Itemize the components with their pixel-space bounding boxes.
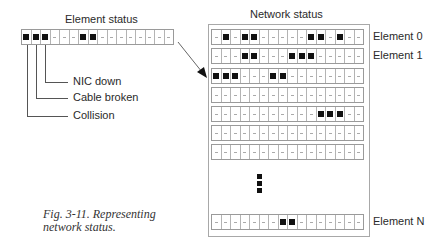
bit-clear <box>326 215 336 229</box>
bit-clear <box>336 49 346 63</box>
bit-clear <box>231 30 241 44</box>
bit-clear <box>355 49 364 63</box>
bit-clear <box>260 49 270 63</box>
bit-clear <box>345 69 355 83</box>
bit-clear <box>241 69 251 83</box>
bit-clear <box>212 145 222 159</box>
bit-set <box>317 30 327 44</box>
bit-clear <box>298 126 308 140</box>
bit-clear <box>260 30 270 44</box>
network-row-0 <box>211 29 364 45</box>
bit-set <box>279 215 289 229</box>
network-row-6 <box>211 144 364 160</box>
bit-clear <box>279 30 289 44</box>
bit-clear <box>298 107 308 121</box>
bit-clear <box>298 88 308 102</box>
bit-clear <box>288 145 298 159</box>
vertical-ellipsis-dot <box>257 188 262 193</box>
bit-clear <box>288 126 298 140</box>
bit-set <box>241 49 251 63</box>
bit-clear <box>355 126 364 140</box>
bit-clear <box>241 107 251 121</box>
bit-clear <box>212 88 222 102</box>
bit-clear <box>317 215 327 229</box>
bit-set <box>250 49 260 63</box>
bit-clear <box>288 88 298 102</box>
bit-clear <box>345 215 355 229</box>
bit-clear <box>231 126 241 140</box>
bit-clear <box>355 30 364 44</box>
bit-clear <box>231 49 241 63</box>
bit-clear <box>222 145 232 159</box>
bit-set <box>222 30 232 44</box>
bit-clear <box>326 88 336 102</box>
bit-clear <box>212 107 222 121</box>
bit-clear <box>355 69 364 83</box>
bit-clear <box>298 145 308 159</box>
bit-set <box>212 69 222 83</box>
bit-set <box>336 30 346 44</box>
bit-clear <box>288 30 298 44</box>
bit-clear <box>241 145 251 159</box>
bit-clear <box>241 126 251 140</box>
bit-clear <box>288 107 298 121</box>
bit-clear <box>269 49 279 63</box>
bit-clear <box>307 69 317 83</box>
bit-clear <box>345 126 355 140</box>
bit-clear <box>269 88 279 102</box>
arrow-head-icon <box>197 67 207 78</box>
bit-set <box>279 69 289 83</box>
bit-clear <box>222 107 232 121</box>
bit-clear <box>326 126 336 140</box>
bit-clear <box>355 215 364 229</box>
bit-clear <box>269 126 279 140</box>
bit-clear <box>212 49 222 63</box>
bit-clear <box>269 107 279 121</box>
vertical-ellipsis-dot <box>257 181 262 186</box>
bit-clear <box>298 215 308 229</box>
bit-clear <box>317 49 327 63</box>
bit-clear <box>231 145 241 159</box>
network-status-title: Network status <box>250 8 323 20</box>
bit-clear <box>241 88 251 102</box>
figure-caption: Fig. 3-11. Representing network status. <box>43 208 156 234</box>
bit-clear <box>241 215 251 229</box>
row-label-element-n: Element N <box>373 215 424 227</box>
bit-set <box>298 49 308 63</box>
bit-clear <box>279 49 289 63</box>
bit-clear <box>307 126 317 140</box>
bit-clear <box>288 69 298 83</box>
bit-set <box>307 30 317 44</box>
bit-clear <box>260 88 270 102</box>
bit-clear <box>307 215 317 229</box>
bit-clear <box>269 145 279 159</box>
bit-clear <box>222 88 232 102</box>
bit-clear <box>336 69 346 83</box>
bit-clear <box>212 126 222 140</box>
caption-line-2: network status. <box>43 221 156 234</box>
bit-clear <box>260 145 270 159</box>
bit-set <box>336 107 346 121</box>
bit-clear <box>250 126 260 140</box>
bit-clear <box>250 145 260 159</box>
bit-clear <box>250 69 260 83</box>
network-row-element-n <box>211 214 364 230</box>
bit-clear <box>345 145 355 159</box>
bit-clear <box>317 88 327 102</box>
bit-clear <box>250 215 260 229</box>
row-label-element-0: Element 0 <box>373 30 423 42</box>
bit-clear <box>307 145 317 159</box>
network-row-5 <box>211 125 364 141</box>
bit-set <box>307 49 317 63</box>
bit-clear <box>250 88 260 102</box>
bit-clear <box>279 145 289 159</box>
network-row-4 <box>211 106 364 122</box>
bit-set <box>288 49 298 63</box>
bit-clear <box>317 126 327 140</box>
bit-clear <box>336 145 346 159</box>
bit-clear <box>222 215 232 229</box>
network-row-2 <box>211 68 364 84</box>
network-row-3 <box>211 87 364 103</box>
bit-clear <box>317 145 327 159</box>
bit-set <box>222 69 232 83</box>
